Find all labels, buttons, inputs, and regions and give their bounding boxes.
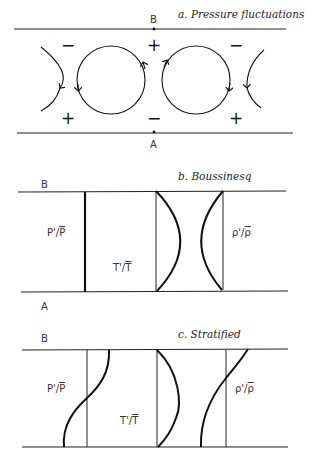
panel-b-label-b: B [41,180,48,190]
sign-bottom-right: + [229,110,243,127]
left-partial-vortex-lower [41,88,60,111]
right-partial-vortex-lower [247,88,261,108]
boundary-bottom-line [21,291,288,292]
point-b-dot [153,28,156,31]
panel-b-label-a: A [41,302,48,312]
panel-b-title: b. Boussinesq [178,171,251,182]
panel-a-label-b: B [150,15,157,25]
panel-c-title: c. Stratified [178,329,241,340]
pressure-profile-curve [64,350,109,447]
vortex-1-arrow-down-icon [78,84,79,91]
density-label-mean: ρ [244,227,250,238]
sign-top-left: − [61,37,75,54]
density-label-mean: ρ [247,383,253,394]
panel-a-label-a: A [150,140,157,150]
point-a-dot [153,131,156,134]
figure-canvas [0,0,321,449]
density-label-numerator: ρ'/ [232,227,244,238]
sign-bottom-center: − [147,110,161,127]
temperature-label-numerator: T'/ [113,262,125,273]
panel-b-diagram [18,191,288,292]
panel-c-pressure-label: P'/P [47,384,65,394]
pressure-label-numerator: P'/ [47,227,59,238]
temperature-profile-curve [157,350,179,447]
temperature-label-mean: T [132,415,138,426]
temperature-profile-curve [156,191,180,291]
sign-top-right: − [229,37,243,54]
vortex-2-arrow-down-icon [229,83,230,91]
panel-c-diagram [22,349,288,447]
panel-c-density-label: ρ'/ρ [235,384,254,394]
density-profile-curve [201,349,248,447]
pressure-label-numerator: P'/ [47,383,59,394]
right-partial-vortex [247,50,264,88]
panel-c-temperature-label: T'/T [120,416,138,426]
temperature-label-numerator: T'/ [120,415,132,426]
density-profile-curve [201,191,223,290]
pressure-label-mean: P [59,227,65,238]
density-label-numerator: ρ'/ [235,383,247,394]
panel-b-temperature-label: T'/T [113,263,131,273]
panel-b-pressure-label: P'/P [47,228,65,238]
panel-b-density-label: ρ'/ρ [232,228,251,238]
vortex-2 [162,46,230,114]
temperature-label-mean: T [125,262,131,273]
vortex-1 [77,46,145,114]
sign-top-center: + [147,37,161,54]
sign-bottom-left: + [61,110,75,127]
boundary-top-line [18,191,286,192]
pressure-label-mean: P [59,383,65,394]
panel-c-label-b: B [41,334,48,344]
panel-a-title: a. Pressure fluctuations [178,9,304,20]
